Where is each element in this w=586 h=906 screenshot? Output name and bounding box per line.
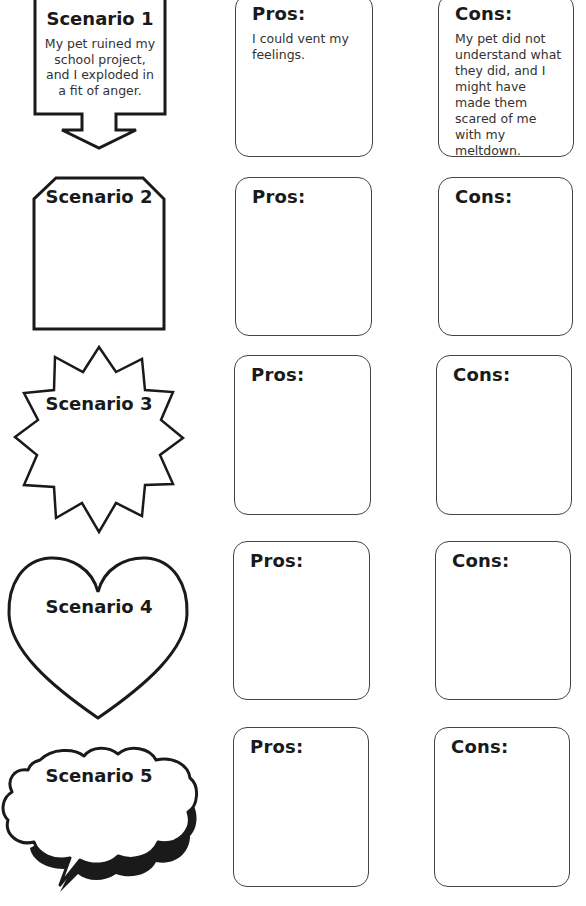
heart-shape	[9, 558, 187, 718]
cons-label: Cons:	[452, 550, 509, 571]
scenario-1-description: My pet ruined my school project, and I e…	[42, 36, 158, 98]
pros-label: Pros:	[250, 550, 303, 571]
starburst-shape	[15, 347, 183, 532]
pros-label: Pros:	[251, 364, 304, 385]
cons-label: Cons:	[455, 3, 512, 24]
pros-card-4[interactable]: Pros:	[233, 541, 370, 700]
scenario-1-title: Scenario 1	[35, 8, 165, 29]
pros-label: Pros:	[252, 3, 305, 24]
cons-label: Cons:	[453, 364, 510, 385]
cons-card-4[interactable]: Cons:	[435, 541, 571, 700]
pros-card-1[interactable]: Pros: I could vent my feelings.	[235, 0, 373, 157]
cons-card-1[interactable]: Cons: My pet did not understand what the…	[438, 0, 574, 157]
pros-text[interactable]: I could vent my feelings.	[252, 31, 364, 63]
scenario-5-title: Scenario 5	[34, 765, 164, 786]
cons-label: Cons:	[451, 736, 508, 757]
cons-label: Cons:	[455, 186, 512, 207]
scenario-3-title: Scenario 3	[34, 393, 164, 414]
cons-card-3[interactable]: Cons:	[436, 355, 572, 515]
cons-text[interactable]: My pet did not understand what they did,…	[455, 31, 565, 159]
pros-label: Pros:	[252, 186, 305, 207]
pros-card-2[interactable]: Pros:	[235, 177, 372, 336]
scenario-4-title: Scenario 4	[34, 596, 164, 617]
scenario-2-title: Scenario 2	[34, 186, 164, 207]
pros-label: Pros:	[250, 736, 303, 757]
pros-card-3[interactable]: Pros:	[234, 355, 371, 515]
pros-card-5[interactable]: Pros:	[233, 727, 369, 887]
cons-card-5[interactable]: Cons:	[434, 727, 570, 887]
cons-card-2[interactable]: Cons:	[438, 177, 573, 336]
